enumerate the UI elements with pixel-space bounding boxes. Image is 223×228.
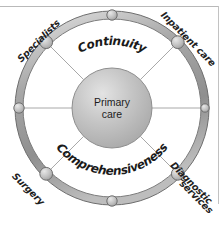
node-bottom-left-icon — [40, 167, 53, 180]
center-label-primary-care: Primary care — [77, 96, 147, 120]
primary-care-diagram: Continuity Comprehensiveness Specialists… — [0, 0, 223, 228]
center-label-line1: Primary — [77, 96, 147, 108]
center-label-line2: care — [77, 108, 147, 120]
node-top-icon — [107, 10, 117, 20]
label-continuity: Continuity — [76, 34, 150, 56]
node-left-icon — [14, 103, 24, 113]
node-bottom-icon — [107, 196, 117, 206]
node-right-icon — [201, 104, 209, 112]
